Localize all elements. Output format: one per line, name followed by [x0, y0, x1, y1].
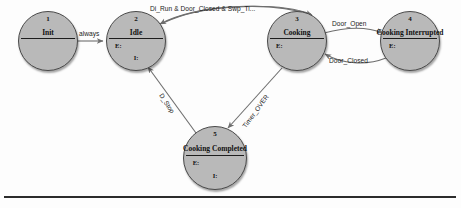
state-label: Cooking Interrupted: [377, 28, 444, 37]
state-divider: [383, 38, 436, 39]
state-entry-label: E:: [276, 42, 283, 50]
state-index: 1: [19, 15, 77, 24]
state-divider: [109, 38, 162, 39]
state-entry-label: E:: [389, 42, 396, 50]
state-index: 5: [184, 130, 246, 139]
state-node-cooking-completed[interactable]: 5 Cooking Completed E: I:: [183, 126, 247, 190]
state-divider: [270, 38, 323, 39]
state-index: 4: [381, 15, 439, 24]
state-node-cooking[interactable]: 3 Cooking E:: [267, 11, 327, 71]
state-label: Idle: [130, 28, 143, 37]
state-diagram-canvas: 1 Init 2 Idle E: I: 3 Cooking E: 4 Cooki…: [0, 0, 461, 208]
transition-label-door-open: Door_Open: [332, 20, 367, 27]
state-index: 2: [107, 15, 165, 24]
state-divider: [21, 38, 74, 39]
state-entry-label: E:: [193, 159, 200, 167]
state-entry-label: E:: [115, 42, 122, 50]
state-node-cooking-interrupted[interactable]: 4 Cooking Interrupted E:: [380, 11, 440, 71]
edge-completed-to-idle: [148, 67, 196, 133]
state-node-idle[interactable]: 2 Idle E: I:: [106, 11, 166, 71]
state-label: Cooking: [283, 28, 310, 37]
state-divider: [186, 155, 243, 156]
bottom-divider-rule: [4, 196, 456, 198]
state-invariant-label: I:: [107, 54, 165, 62]
state-node-init[interactable]: 1 Init: [18, 11, 78, 71]
state-invariant-label: I:: [184, 172, 246, 180]
transition-label-di-run-door-closed-swp-ti: Di_Run & Door_Closed & Swp_Ti...: [150, 5, 255, 12]
state-label: Cooking Completed: [183, 144, 247, 153]
edge-cooking-to-interrupted: [324, 28, 383, 33]
edge-cooking-to-completed: [228, 68, 282, 128]
state-index: 3: [268, 15, 326, 24]
transition-label-always: always: [79, 30, 99, 37]
state-label: Init: [42, 28, 54, 37]
transition-label-door-closed: Door_Closed: [329, 57, 368, 64]
